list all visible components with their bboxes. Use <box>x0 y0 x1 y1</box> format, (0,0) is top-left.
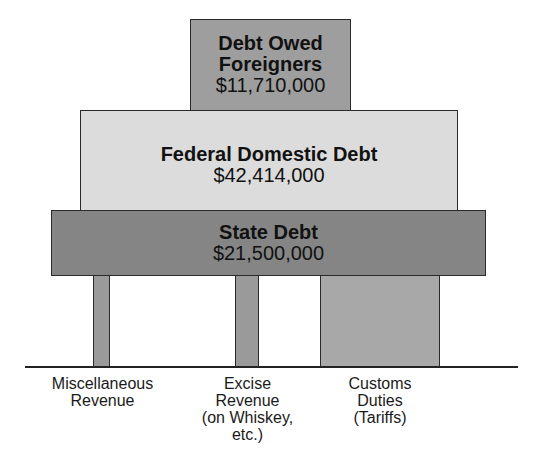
debt-owed-foreigners-box: Debt Owed Foreigners $11,710,000 <box>190 19 351 112</box>
state-debt-title: State Debt <box>52 222 485 243</box>
customs-duties-pillar <box>320 276 440 367</box>
customs-duties-label: Customs Duties (Tariffs) <box>320 375 440 426</box>
excise-revenue-pillar <box>235 276 259 367</box>
federal-domestic-debt-value: $42,414,000 <box>81 165 457 186</box>
excise-revenue-label: Excise Revenue (on Whiskey, etc.) <box>185 375 310 443</box>
misc-revenue-pillar <box>93 276 110 367</box>
ground-line <box>25 366 518 368</box>
federal-domestic-debt-box: Federal Domestic Debt $42,414,000 <box>80 110 458 211</box>
federal-domestic-debt-title: Federal Domestic Debt <box>81 144 457 165</box>
debt-owed-foreigners-value: $11,710,000 <box>191 75 350 96</box>
state-debt-box: State Debt $21,500,000 <box>51 210 486 276</box>
debt-owed-foreigners-title: Debt Owed Foreigners <box>191 33 350 75</box>
misc-revenue-label: Miscellaneous Revenue <box>25 375 180 409</box>
state-debt-value: $21,500,000 <box>52 243 485 264</box>
